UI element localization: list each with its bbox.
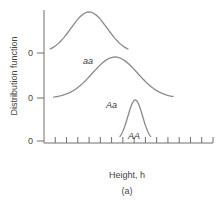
curve-label-aa: aa xyxy=(83,56,93,66)
y-zero-label-Aa: 0 xyxy=(28,93,33,103)
genotype-distribution-chart: 0 0 0 aa Aa AA Distribution function Hei… xyxy=(0,0,222,209)
curve-Aa xyxy=(53,57,174,97)
y-zero-label-aa: 0 xyxy=(28,48,33,58)
x-axis-label: Height, h xyxy=(109,170,145,180)
y-axis-zero-marks: 0 0 0 xyxy=(28,48,44,146)
distribution-curves xyxy=(50,12,174,137)
y-zero-label-AA: 0 xyxy=(28,136,33,146)
curve-label-Aa: Aa xyxy=(105,100,117,110)
panel-label: (a) xyxy=(122,186,133,196)
curve-aa xyxy=(50,12,129,49)
y-axis-label: Distribution function xyxy=(9,36,19,115)
curve-label-AA: AA xyxy=(127,131,140,141)
